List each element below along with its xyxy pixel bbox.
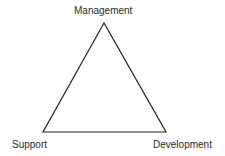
- triangle-diagram: [0, 0, 225, 156]
- vertex-label-management: Management: [74, 5, 132, 17]
- triangle-shape: [43, 23, 166, 132]
- vertex-label-development: Development: [153, 139, 212, 151]
- vertex-label-support: Support: [12, 139, 47, 151]
